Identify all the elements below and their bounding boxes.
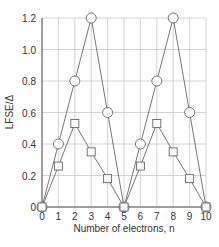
y-tick-label: 0.2 <box>22 171 36 182</box>
square-marker <box>186 175 194 183</box>
square-marker <box>54 162 62 170</box>
y-tick-label: 1.0 <box>22 45 36 56</box>
square-marker <box>87 148 95 156</box>
square-marker <box>71 120 79 128</box>
x-tick-label: 2 <box>72 211 78 222</box>
x-tick-label: 7 <box>154 211 160 222</box>
x-tick-label: 5 <box>121 211 127 222</box>
circle-marker <box>185 108 195 118</box>
square-marker <box>153 120 161 128</box>
circle-marker <box>168 13 178 23</box>
circle-marker <box>86 13 96 23</box>
chart: 01234567891000.20.40.60.81.01.2 Number o… <box>0 0 219 247</box>
y-tick-label: 1.2 <box>22 13 36 24</box>
x-tick-label: 6 <box>138 211 144 222</box>
circle-marker <box>152 76 162 86</box>
square-marker <box>202 203 210 211</box>
circle-marker <box>70 76 80 86</box>
x-tick-label: 1 <box>56 211 62 222</box>
x-axis-label: Number of electrons, n <box>73 223 174 234</box>
x-tick-label: 8 <box>170 211 176 222</box>
tick-labels: 01234567891000.20.40.60.81.01.2 <box>22 13 212 222</box>
y-tick-label: 0 <box>30 202 36 213</box>
square-marker <box>120 203 128 211</box>
square-marker <box>169 148 177 156</box>
square-marker <box>38 203 46 211</box>
x-tick-label: 0 <box>39 211 45 222</box>
x-tick-label: 3 <box>88 211 94 222</box>
square-marker <box>104 175 112 183</box>
circle-marker <box>103 108 113 118</box>
y-tick-label: 0.8 <box>22 76 36 87</box>
circle-marker <box>135 139 145 149</box>
x-tick-label: 4 <box>105 211 111 222</box>
circle-marker <box>53 139 63 149</box>
x-tick-label: 10 <box>200 211 212 222</box>
y-axis-label: LFSE/Δ <box>4 94 15 129</box>
y-tick-label: 0.4 <box>22 139 36 150</box>
x-tick-label: 9 <box>187 211 193 222</box>
square-marker <box>136 162 144 170</box>
y-tick-label: 0.6 <box>22 108 36 119</box>
